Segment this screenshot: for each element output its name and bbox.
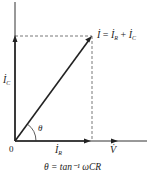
ic-axis-subscript: C <box>6 80 10 86</box>
theta-label: θ <box>38 124 42 133</box>
theta-arc <box>27 124 36 141</box>
v-label: V̇ <box>110 145 116 155</box>
plus-sign: + <box>121 29 127 40</box>
i-total-arrowhead <box>85 36 92 43</box>
i-symbol: İ <box>97 29 100 40</box>
phasor-diagram <box>0 0 157 182</box>
origin-label: 0 <box>9 145 14 154</box>
equals-sign: = <box>103 29 109 40</box>
ir-subscript: R <box>114 35 118 41</box>
ir-axis-subscript: R <box>58 150 62 156</box>
ir-arrowhead <box>84 139 91 144</box>
ic-subscript: C <box>132 35 136 41</box>
ic-label: İC <box>3 75 10 86</box>
i-total-label: İ = İR + İC <box>97 30 136 41</box>
v-arrowhead <box>111 139 118 144</box>
formula-caption: θ = tan⁻¹ ωCR <box>44 163 101 173</box>
ir-label: İR <box>55 145 62 156</box>
i-total-phasor <box>15 40 89 141</box>
